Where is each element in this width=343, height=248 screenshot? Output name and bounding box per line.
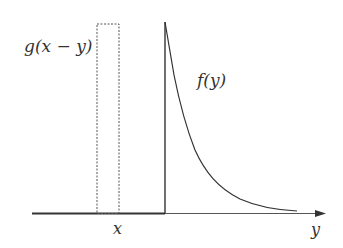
f-decay-curve xyxy=(165,22,297,211)
f-label: f(y) xyxy=(197,72,226,89)
axis-arrow-icon xyxy=(315,210,326,217)
y-axis-label: y xyxy=(311,222,320,238)
window-g-rectangle xyxy=(97,24,119,214)
x-label: x xyxy=(113,221,122,237)
g-label: g(x − y) xyxy=(24,38,92,55)
